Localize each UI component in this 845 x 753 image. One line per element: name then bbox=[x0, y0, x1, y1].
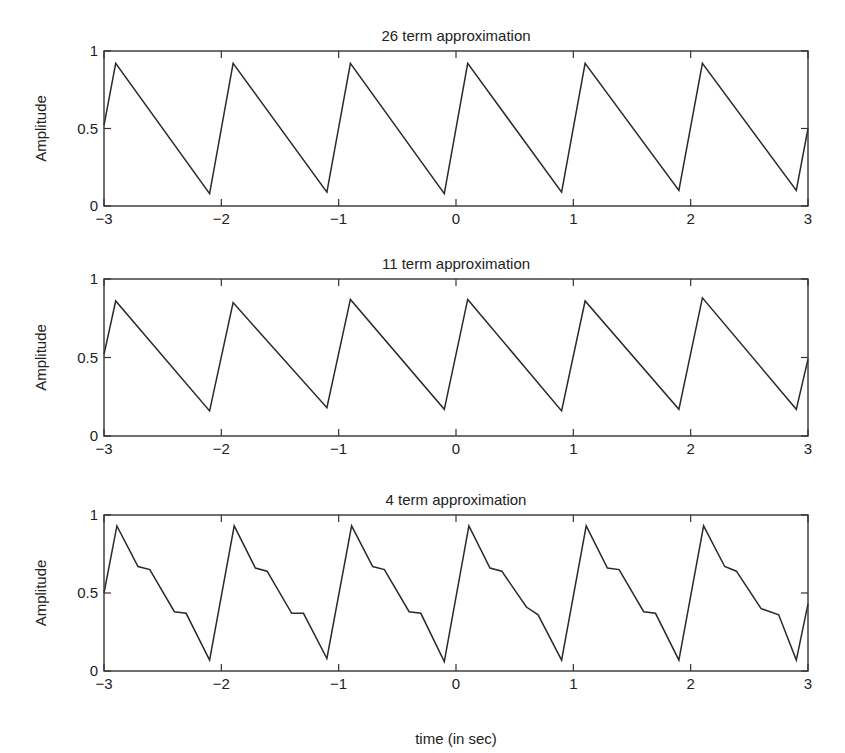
subplot-title: 26 term approximation bbox=[381, 27, 530, 44]
y-tick-label: 1 bbox=[90, 506, 98, 523]
data-line bbox=[104, 63, 808, 193]
x-tick-label: 3 bbox=[804, 210, 812, 227]
data-line bbox=[104, 526, 808, 662]
x-tick-label: −3 bbox=[95, 210, 112, 227]
subplot-26-term: 26 term approximation−3−2−1012300.51Ampl… bbox=[32, 27, 812, 227]
y-tick-label: 1 bbox=[90, 270, 98, 287]
x-tick-label: −1 bbox=[330, 210, 347, 227]
x-axis-label: time (in sec) bbox=[415, 730, 497, 747]
x-tick-label: −1 bbox=[330, 675, 347, 692]
y-tick-label: 0 bbox=[90, 197, 98, 214]
y-axis-label: Amplitude bbox=[32, 324, 49, 391]
x-tick-label: 1 bbox=[569, 440, 577, 457]
y-tick-label: 0.5 bbox=[77, 120, 98, 137]
subplot-title: 4 term approximation bbox=[386, 491, 527, 508]
y-tick-label: 0 bbox=[90, 662, 98, 679]
x-tick-label: 2 bbox=[686, 210, 694, 227]
x-tick-label: 0 bbox=[452, 675, 460, 692]
y-tick-label: 0 bbox=[90, 427, 98, 444]
subplot-title: 11 term approximation bbox=[382, 255, 530, 272]
subplot-4-term: 4 term approximation−3−2−1012300.51Ampli… bbox=[32, 491, 812, 692]
x-tick-label: 2 bbox=[686, 440, 694, 457]
x-tick-label: 0 bbox=[452, 440, 460, 457]
y-tick-label: 0.5 bbox=[77, 349, 98, 366]
x-tick-label: −3 bbox=[95, 675, 112, 692]
y-axis-label: Amplitude bbox=[32, 95, 49, 162]
y-axis-label: Amplitude bbox=[32, 560, 49, 627]
x-tick-label: 1 bbox=[569, 210, 577, 227]
x-tick-label: −1 bbox=[330, 440, 347, 457]
x-tick-label: −2 bbox=[213, 210, 230, 227]
data-line bbox=[104, 298, 808, 411]
x-tick-label: 3 bbox=[804, 440, 812, 457]
figure: 26 term approximation−3−2−1012300.51Ampl… bbox=[0, 0, 845, 753]
x-tick-label: 1 bbox=[569, 675, 577, 692]
y-tick-label: 1 bbox=[90, 42, 98, 59]
x-tick-label: −3 bbox=[95, 440, 112, 457]
x-tick-label: −2 bbox=[213, 675, 230, 692]
x-tick-label: −2 bbox=[213, 440, 230, 457]
x-tick-label: 3 bbox=[804, 675, 812, 692]
subplot-11-term: 11 term approximation−3−2−1012300.51Ampl… bbox=[32, 255, 812, 457]
x-tick-label: 0 bbox=[452, 210, 460, 227]
y-tick-label: 0.5 bbox=[77, 584, 98, 601]
x-tick-label: 2 bbox=[686, 675, 694, 692]
